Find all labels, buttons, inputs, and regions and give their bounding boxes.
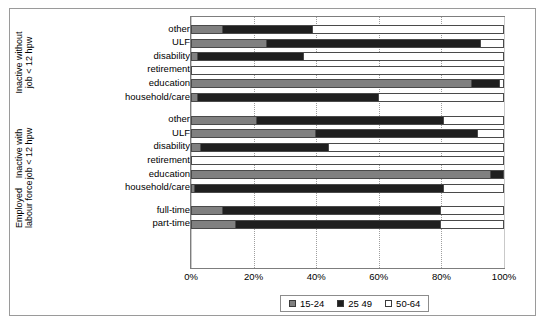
category-label-other: other: [40, 114, 190, 123]
category-label-disability: disability: [40, 51, 190, 60]
stacked-bar: [191, 39, 504, 48]
bar-segment-50-64: [379, 94, 503, 101]
bar-row: [191, 116, 504, 125]
category-label-retirement: retirement: [40, 64, 190, 73]
category-label-full-time: full-time: [40, 205, 190, 214]
stacked-bar: [191, 79, 504, 88]
bar-segment-25-49: [236, 221, 441, 228]
bar-row: [191, 220, 504, 229]
bar-segment-25-49: [491, 171, 503, 178]
bar-row: [191, 25, 504, 34]
bar-segment-50-64: [444, 185, 503, 192]
gridline-100pct: [504, 17, 506, 268]
bar-row: [191, 79, 504, 88]
bar-segment-25-49: [195, 185, 444, 192]
bar-row: [191, 156, 504, 165]
stacked-bar: [191, 66, 504, 75]
group-label-line: Inactive without: [14, 24, 24, 101]
category-label-disability: disability: [40, 141, 190, 150]
bar-segment-50-64: [192, 67, 503, 74]
legend-item: 50-64: [385, 298, 420, 309]
bar-row: [191, 66, 504, 75]
bar-segment-50-64: [441, 221, 503, 228]
stacked-bar: [191, 143, 504, 152]
bar-segment-25-49: [267, 40, 482, 47]
stacked-bar: [191, 206, 504, 215]
bar-segment-15-24: [192, 117, 257, 124]
bar-segment-50-64: [313, 26, 503, 33]
stacked-bar: [191, 170, 504, 179]
stacked-bar: [191, 116, 504, 125]
bar-segment-25-49: [223, 26, 313, 33]
group-label-line: Employed: [14, 205, 24, 228]
x-tick-label-80pct: 80%: [432, 271, 451, 282]
plot-area: [190, 16, 505, 269]
bar-segment-15-24: [192, 26, 223, 33]
x-tick-label-20pct: 20%: [244, 271, 263, 282]
bar-segment-25-49: [316, 130, 478, 137]
bar-segment-25-49: [257, 117, 444, 124]
bar-row: [191, 52, 504, 61]
stacked-bar: [191, 129, 504, 138]
bar-row: [191, 39, 504, 48]
legend-label: 50-64: [396, 298, 420, 309]
bar-row: [191, 129, 504, 138]
stacked-bar: [191, 220, 504, 229]
x-axis: 0%20%40%60%80%100%: [190, 271, 505, 285]
category-label-other: other: [40, 24, 190, 33]
bar-segment-50-64: [444, 117, 503, 124]
bar-row: [191, 206, 504, 215]
x-tick-label-0pct: 0%: [184, 271, 198, 282]
category-label-retirement: retirement: [40, 155, 190, 164]
stacked-bar: [191, 93, 504, 102]
legend-swatch-icon: [337, 300, 344, 307]
bar-row: [191, 170, 504, 179]
bar-segment-15-24: [192, 80, 472, 87]
legend-swatch-icon: [289, 300, 296, 307]
x-tick-label-40pct: 40%: [307, 271, 326, 282]
category-label-education: education: [40, 169, 190, 178]
category-label-education: education: [40, 78, 190, 87]
bar-segment-50-64: [481, 40, 503, 47]
bar-segment-50-64: [304, 53, 503, 60]
category-label-part-time: part-time: [40, 218, 190, 227]
bar-segment-15-24: [192, 144, 201, 151]
x-tick-label-100pct: 100%: [492, 271, 516, 282]
legend-item: 15-24: [289, 298, 324, 309]
bar-segment-25-49: [198, 94, 378, 101]
bar-segment-25-49: [472, 80, 500, 87]
bar-segment-50-64: [441, 207, 503, 214]
chart-legend: 15-2425 4950-64: [280, 295, 429, 312]
legend-swatch-icon: [385, 300, 392, 307]
bar-segment-15-24: [192, 40, 267, 47]
category-label-household-care: household/care: [40, 182, 190, 191]
bar-row: [191, 93, 504, 102]
category-axis-labels: otherULFdisabilityretirementeducationhou…: [30, 16, 190, 269]
group-label-line: Inactive with: [14, 115, 24, 192]
bar-segment-50-64: [329, 144, 503, 151]
legend-label: 25 49: [348, 298, 372, 309]
bar-segment-15-24: [192, 171, 491, 178]
stacked-bar: [191, 52, 504, 61]
stacked-bar: [191, 25, 504, 34]
bar-segment-15-24: [192, 130, 316, 137]
x-tick-label-60pct: 60%: [369, 271, 388, 282]
chart-frame: Inactive withoutjob < 12 hpwInactive wit…: [9, 8, 536, 316]
bar-row: [191, 184, 504, 193]
bar-segment-50-64: [478, 130, 503, 137]
bar-segment-15-24: [192, 207, 223, 214]
bar-segment-50-64: [192, 157, 503, 164]
bar-segment-50-64: [500, 80, 503, 87]
bar-row: [191, 143, 504, 152]
category-label-ulf: ULF: [40, 37, 190, 46]
category-label-household-care: household/care: [40, 92, 190, 101]
stacked-bar: [191, 156, 504, 165]
bar-segment-25-49: [201, 144, 329, 151]
bar-segment-25-49: [223, 207, 441, 214]
stacked-bar: [191, 184, 504, 193]
legend-label: 15-24: [300, 298, 324, 309]
legend-item: 25 49: [337, 298, 372, 309]
category-label-ulf: ULF: [40, 128, 190, 137]
bar-segment-25-49: [198, 53, 304, 60]
bar-segment-15-24: [192, 221, 236, 228]
